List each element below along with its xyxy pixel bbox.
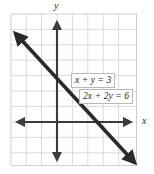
x-axis-label: x bbox=[142, 115, 146, 126]
coordinate-plane-graph: y x x + y = 3 2x + 2y = 6 bbox=[0, 0, 154, 174]
equation-label-1: x + y = 3 bbox=[71, 73, 115, 88]
y-axis-label: y bbox=[54, 0, 58, 11]
equation-label-2: 2x + 2y = 6 bbox=[79, 89, 133, 104]
